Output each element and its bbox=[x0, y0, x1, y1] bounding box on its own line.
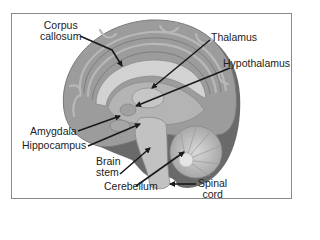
label-thalamus: Thalamus bbox=[211, 32, 257, 43]
label-spinal-cord: Spinal cord bbox=[198, 178, 227, 200]
label-brain-stem: Brain stem bbox=[96, 156, 121, 178]
cerebellum-shape bbox=[170, 126, 222, 178]
label-amygdala: Amygdala bbox=[30, 126, 77, 137]
brain-stem-shape bbox=[135, 117, 170, 189]
label-corpus-callosum-line2: callosum bbox=[40, 31, 81, 42]
label-hippocampus: Hippocampus bbox=[22, 140, 86, 151]
label-corpus-callosum: Corpus callosum bbox=[40, 20, 81, 42]
label-brain-stem-line2: stem bbox=[96, 167, 121, 178]
label-cerebellum: Cerebellum bbox=[104, 181, 158, 192]
label-hypothalamus: Hypothalamus bbox=[223, 58, 290, 69]
label-spinal-cord-line2: cord bbox=[198, 189, 227, 200]
